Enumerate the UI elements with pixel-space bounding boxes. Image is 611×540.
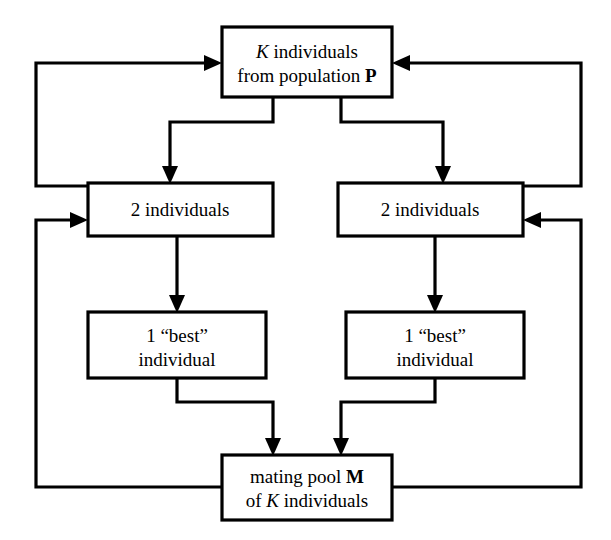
arrowhead-mating-pool-in-left (265, 438, 281, 456)
node-mating-pool-line1: mating pool M (250, 466, 364, 487)
mating-pool-line2-suffix: individuals (279, 490, 368, 511)
population-line1-text: individuals (269, 41, 358, 62)
arrowhead-population-in-right (392, 55, 410, 71)
node-population-box[interactable] (222, 27, 392, 97)
connector-left-best-to-mating-pool (177, 378, 273, 444)
connector-population-to-right-tournament (341, 97, 443, 172)
arrowhead-left-tournament-feedback (70, 212, 88, 228)
flowchart-diagram: K individuals from population P 2 indivi… (0, 0, 611, 540)
connector-left-tournament-to-population-loop (36, 63, 210, 186)
node-population-line1: K individuals (255, 41, 358, 62)
arrowhead-right-tournament-in (435, 166, 451, 184)
arrowhead-right-tournament-feedback (523, 212, 541, 228)
arrowhead-left-best-in (169, 295, 185, 313)
flowchart-canvas: K individuals from population P 2 indivi… (0, 0, 611, 540)
population-p-symbol: P (365, 65, 377, 86)
connector-right-best-to-mating-pool (341, 378, 435, 444)
arrowhead-right-best-in (427, 295, 443, 313)
mating-pool-m-symbol: M (346, 466, 364, 487)
mating-pool-line1-text: mating pool (250, 466, 346, 487)
connector-right-tournament-to-population-loop (404, 63, 581, 186)
mating-pool-line2-prefix: of (246, 490, 267, 511)
arrowhead-left-tournament-in (162, 166, 178, 184)
node-mating-pool-line2: of K individuals (246, 490, 368, 511)
arrowhead-mating-pool-in-right (333, 438, 349, 456)
connector-population-to-left-tournament (170, 97, 273, 172)
node-tournament-left-label: 2 individuals (131, 199, 230, 220)
node-population-line2: from population P (237, 65, 377, 86)
population-line2-text: from population (237, 65, 365, 86)
node-best-right-line1: 1 “best” (404, 325, 466, 346)
arrowhead-population-in-left (204, 55, 222, 71)
node-tournament-right-label: 2 individuals (381, 199, 480, 220)
node-best-right-line2: individual (396, 349, 473, 370)
node-best-left-line2: individual (138, 349, 215, 370)
node-best-left-line1: 1 “best” (146, 325, 208, 346)
